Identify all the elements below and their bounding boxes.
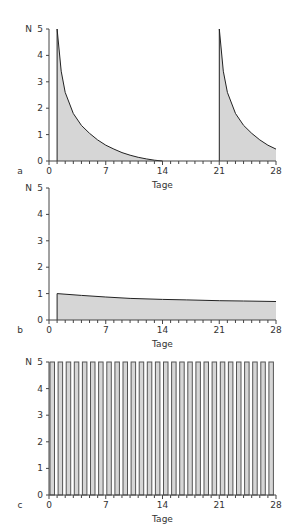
panel-letter: c (18, 500, 23, 510)
bar (139, 362, 144, 495)
y-tick-label: 1 (37, 463, 43, 473)
x-tick-label: 21 (214, 500, 225, 510)
chart-panel-a: 01234507142128NaTage (17, 24, 282, 190)
y-tick-label: 5 (37, 357, 43, 367)
x-axis-label: Tage (151, 180, 173, 190)
y-tick-label: 4 (37, 50, 43, 60)
x-tick-label: 7 (103, 500, 109, 510)
area-series-1 (219, 29, 276, 161)
bar (115, 362, 120, 495)
x-tick-label: 14 (157, 500, 169, 510)
bar (147, 362, 152, 495)
bar (74, 362, 79, 495)
x-tick-label: 21 (214, 325, 225, 335)
y-tick-label: 0 (37, 315, 43, 325)
y-tick-label: 2 (37, 103, 43, 113)
bar (164, 362, 169, 495)
bar (155, 362, 160, 495)
bar (131, 362, 136, 495)
chart-panel-c: 01234507142128NcTage (18, 357, 282, 524)
x-axis-label: Tage (151, 339, 173, 349)
figure: 01234507142128NaTage01234507142128NbTage… (0, 0, 294, 531)
y-axis-label: N (25, 183, 32, 193)
bar (107, 362, 112, 495)
bar (212, 362, 217, 495)
y-tick-label: 5 (37, 24, 43, 34)
y-tick-label: 2 (37, 437, 43, 447)
bar (123, 362, 128, 495)
bar (99, 362, 104, 495)
y-tick-label: 5 (37, 183, 43, 193)
area-series-0 (57, 294, 276, 320)
bar (204, 362, 209, 495)
y-tick-label: 2 (37, 262, 43, 272)
chart-panel-b: 01234507142128NbTage (17, 183, 282, 349)
bar (253, 362, 258, 495)
y-tick-label: 3 (37, 77, 43, 87)
panel-letter: b (17, 325, 23, 335)
bar (196, 362, 201, 495)
x-tick-label: 0 (46, 500, 52, 510)
bar (269, 362, 274, 495)
x-tick-label: 14 (157, 325, 169, 335)
bar (261, 362, 266, 495)
y-tick-label: 1 (37, 130, 43, 140)
y-axis-label: N (25, 357, 32, 367)
x-tick-label: 0 (46, 325, 52, 335)
bar (220, 362, 225, 495)
bar (237, 362, 242, 495)
y-axis-label: N (25, 24, 32, 34)
x-tick-label: 21 (214, 166, 225, 176)
panel-letter: a (17, 166, 23, 176)
area-series-0 (57, 29, 162, 161)
y-tick-label: 4 (37, 209, 43, 219)
x-tick-label: 28 (270, 500, 282, 510)
bar (82, 362, 87, 495)
y-tick-label: 0 (37, 156, 43, 166)
y-tick-label: 3 (37, 236, 43, 246)
bar (180, 362, 185, 495)
bar (50, 362, 55, 495)
bar (58, 362, 63, 495)
x-tick-label: 0 (46, 166, 52, 176)
x-tick-label: 28 (270, 166, 282, 176)
y-tick-label: 1 (37, 289, 43, 299)
y-tick-label: 0 (37, 490, 43, 500)
bar (66, 362, 71, 495)
bar (228, 362, 233, 495)
x-tick-label: 7 (103, 325, 109, 335)
y-tick-label: 3 (37, 410, 43, 420)
x-tick-label: 28 (270, 325, 282, 335)
bar (91, 362, 96, 495)
bar (172, 362, 177, 495)
x-axis-label: Tage (151, 514, 173, 524)
x-tick-label: 14 (157, 166, 169, 176)
x-tick-label: 7 (103, 166, 109, 176)
bar (188, 362, 193, 495)
bar (245, 362, 250, 495)
y-tick-label: 4 (37, 384, 43, 394)
